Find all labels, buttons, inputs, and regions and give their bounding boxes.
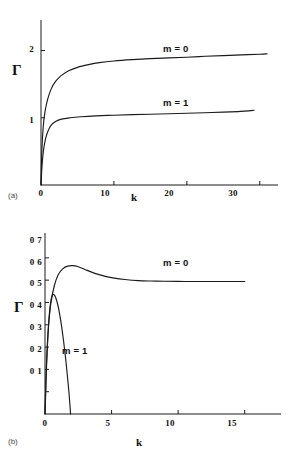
caption-fragment xyxy=(8,447,284,456)
panel-b-y-tick-02: 0 2 xyxy=(24,345,42,354)
panel-b-x-tick-5: 5 xyxy=(106,419,111,428)
panel-a-curve-label-m0: m = 0 xyxy=(163,44,189,54)
curve-m0 xyxy=(45,266,245,414)
panel-b: Γ k 0 7 0 6 0 5 0 4 0 3 0 2 0 1 0 5 10 1… xyxy=(0,200,290,456)
panel-b-curve-label-m0: m = 0 xyxy=(163,258,189,268)
panel-a-x-tick-20: 20 xyxy=(164,189,174,198)
panel-a-y-tick-2: 2 xyxy=(24,45,34,54)
panel-b-curve-label-m1: m = 1 xyxy=(62,346,88,356)
panel-b-x-tick-10: 10 xyxy=(165,419,175,428)
panel-b-x-tick-15: 15 xyxy=(227,419,237,428)
panel-a-curve-label-m1: m = 1 xyxy=(163,98,189,108)
panel-a-x-tick-10: 10 xyxy=(100,189,110,198)
panel-a-x-tick-30: 30 xyxy=(228,189,238,198)
figure-container: Γ k 2 1 0 10 20 30 m = 0 m = 1 (a) Γ k 0… xyxy=(0,0,290,456)
panel-a-y-axis-label: Γ xyxy=(12,63,22,78)
panel-b-y-tick-03: 0 3 xyxy=(24,323,42,332)
panel-b-tag: (b) xyxy=(8,438,18,446)
panel-a-y-tick-1: 1 xyxy=(24,116,34,125)
panel-b-y-axis-label: Γ xyxy=(14,300,24,315)
panel-b-y-tick-07: 0 7 xyxy=(24,236,42,245)
curve-m1 xyxy=(41,110,254,185)
panel-b-y-tick-06: 0 6 xyxy=(24,258,42,267)
curve-m0 xyxy=(41,54,267,185)
panel-b-y-tick-04: 0 4 xyxy=(24,301,42,310)
panel-b-y-tick-05: 0 5 xyxy=(24,279,42,288)
panel-b-x-tick-0: 0 xyxy=(43,419,48,428)
panel-a-tag: (a) xyxy=(8,192,18,200)
panel-b-y-tick-01: 0 1 xyxy=(24,367,42,376)
panel-a: Γ k 2 1 0 10 20 30 m = 0 m = 1 (a) xyxy=(0,0,290,200)
plot-a-canvas xyxy=(0,0,290,200)
panel-a-x-tick-0: 0 xyxy=(39,189,44,198)
